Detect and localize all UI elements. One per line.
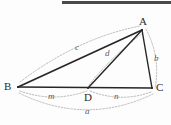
vertex-label-D: D (84, 92, 92, 103)
segment-label-n: n (114, 92, 119, 101)
segment-AB (18, 30, 142, 87)
vertex-dot-D (87, 87, 89, 89)
vertex-label-C: C (156, 82, 163, 93)
vertex-dot-C (151, 87, 153, 89)
vertex-dot-A (141, 29, 143, 31)
segment-label-d: d (105, 49, 110, 58)
arc-c (20, 26, 140, 82)
segment-label-a: a (85, 107, 90, 116)
vertex-dot-B (17, 86, 19, 88)
vertex-dot-group (17, 29, 153, 89)
solid-edge-group (18, 30, 152, 88)
vertex-label-A: A (139, 16, 147, 27)
arc-n (90, 91, 151, 97)
segment-label-b: b (154, 54, 159, 63)
vertex-label-B: B (4, 81, 11, 92)
segment-label-m: m (48, 92, 55, 101)
segment-label-c: c (75, 43, 79, 52)
segment-BC (18, 87, 152, 88)
diagram-canvas: A B C D c d b m n a (0, 0, 171, 125)
